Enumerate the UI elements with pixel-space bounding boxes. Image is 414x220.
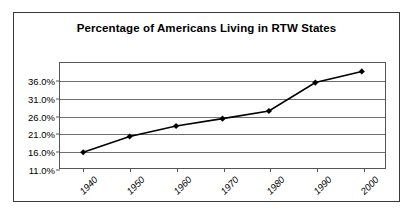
x-axis-tick-label: 1960 xyxy=(171,174,194,197)
y-axis-tick-label: 16.0% xyxy=(28,147,55,158)
gridline xyxy=(60,81,385,82)
chart-frame: Percentage of Americans Living in RTW St… xyxy=(13,12,400,202)
x-axis-tick xyxy=(177,168,178,172)
gridline xyxy=(60,152,385,153)
chart-title: Percentage of Americans Living in RTW St… xyxy=(14,21,399,35)
x-axis-tick xyxy=(317,168,318,172)
y-axis-tick-label: 36.0% xyxy=(28,75,55,86)
x-axis-tick-label: 1980 xyxy=(264,174,287,197)
y-axis-tick-label: 26.0% xyxy=(28,111,55,122)
y-axis-tick-label: 31.0% xyxy=(28,93,55,104)
data-point-marker xyxy=(359,68,365,74)
x-axis-tick xyxy=(270,168,271,172)
data-point-marker xyxy=(173,123,179,129)
y-axis-tick xyxy=(56,116,60,117)
y-axis-tick xyxy=(56,80,60,81)
x-axis-tick xyxy=(83,168,84,172)
y-axis-tick xyxy=(56,98,60,99)
y-axis-tick xyxy=(56,170,60,171)
y-axis-tick-label: 21.0% xyxy=(28,129,55,140)
x-axis-tick xyxy=(224,168,225,172)
plot-area: 11.0%16.0%21.0%26.0%31.0%36.0% 194019501… xyxy=(59,62,386,169)
gridline xyxy=(60,134,385,135)
x-axis-tick-label: 2000 xyxy=(358,174,381,197)
gridline xyxy=(60,117,385,118)
data-point-marker xyxy=(266,108,272,114)
x-axis-tick xyxy=(130,168,131,172)
y-axis-tick xyxy=(56,134,60,135)
x-axis-tick-label: 1950 xyxy=(124,174,147,197)
x-axis-tick-label: 1970 xyxy=(218,174,241,197)
gridline xyxy=(60,99,385,100)
y-axis-tick xyxy=(56,152,60,153)
series-line xyxy=(83,71,362,152)
x-axis-tick-label: 1990 xyxy=(311,174,334,197)
y-axis-tick-label: 11.0% xyxy=(29,165,55,176)
x-axis-tick-label: 1940 xyxy=(77,174,100,197)
x-axis-tick xyxy=(364,168,365,172)
